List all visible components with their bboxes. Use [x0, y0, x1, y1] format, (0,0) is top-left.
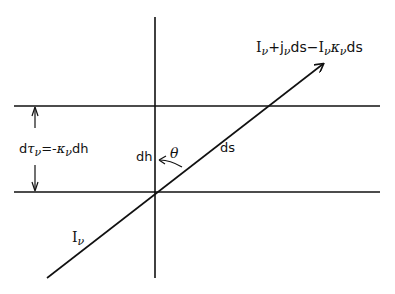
theta-label: θ [170, 146, 178, 160]
ray-line [47, 64, 323, 278]
ds-label: ds [220, 141, 235, 154]
dh-label: dh [136, 150, 153, 163]
incoming-intensity-label: Iν [72, 230, 84, 244]
optical-depth-label: dτν=-κνdh [19, 142, 88, 155]
outgoing-intensity-label: Iν+jνds−Iνκνds [256, 40, 363, 54]
